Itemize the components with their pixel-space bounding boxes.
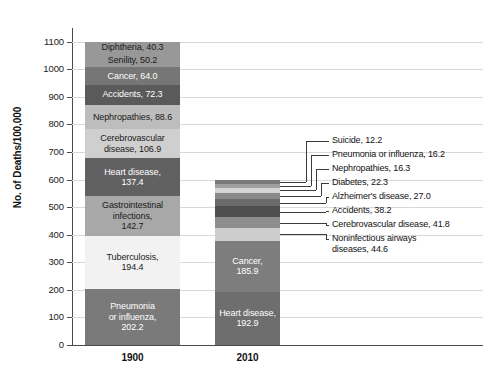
leader-line (321, 183, 322, 196)
y-tick-label: 1100 (24, 37, 64, 47)
y-tick-label: 200 (24, 285, 64, 295)
callout-label: Accidents, 38.2 (332, 205, 391, 216)
leader-line (311, 155, 312, 186)
bar-segment[interactable]: Cerebrovascular disease, 106.9 (85, 129, 180, 158)
y-tick-label-wrap: 800 (20, 119, 64, 129)
leader-line (306, 141, 329, 142)
bar-segment[interactable]: Heart disease, 137.4 (85, 158, 180, 196)
x-tick-label-2010: 2010 (215, 352, 280, 363)
y-tick-label: 100 (24, 312, 64, 322)
leader-line (316, 169, 317, 190)
callout-label: Pneumonia or influenza, 16.2 (332, 149, 445, 160)
bar-2010[interactable]: Heart disease, 192.9Cancer, 185.9 (215, 180, 280, 345)
bar-segment[interactable]: Pneumonia or influenza, 202.2 (85, 289, 180, 345)
leader-line (326, 211, 329, 212)
y-tick-label: 400 (24, 230, 64, 240)
bar-segment[interactable] (215, 188, 280, 192)
y-tick-label: 1000 (24, 64, 64, 74)
bar-segment[interactable]: Gastrointestinal infections, 142.7 (85, 196, 180, 235)
bar-segment[interactable]: Senility, 50.2 (85, 53, 180, 67)
bar-segment[interactable]: Heart disease, 192.9 (215, 292, 280, 345)
x-tick-label-1900: 1900 (85, 352, 180, 363)
y-tick-mark (67, 345, 72, 346)
x-axis-line (72, 345, 483, 346)
leader-line (326, 234, 327, 239)
leader-line (280, 186, 311, 187)
y-tick-label: 800 (24, 119, 64, 129)
leader-line (326, 225, 329, 226)
y-tick-label-wrap: 200 (20, 285, 64, 295)
leader-line (280, 203, 326, 204)
bar-1900[interactable]: Pneumonia or influenza, 202.2Tuberculosi… (85, 28, 180, 345)
y-tick-label: 0 (24, 340, 64, 350)
bar-segment[interactable]: Accidents, 72.3 (85, 85, 180, 105)
y-tick-label: 700 (24, 147, 64, 157)
leader-line (306, 141, 307, 182)
callout-label: Alzheimer's disease, 27.0 (332, 191, 431, 202)
bar-segment[interactable] (215, 184, 280, 188)
leader-line (321, 183, 329, 184)
bar-segment[interactable] (215, 228, 280, 240)
bar-segment[interactable] (215, 199, 280, 206)
leader-line (316, 169, 329, 170)
leader-line (326, 223, 327, 225)
callout-label: Noninfectious airways diseases, 44.6 (332, 233, 416, 254)
callout-label: Cerebrovascular disease, 41.8 (332, 219, 450, 230)
y-tick-label-wrap: 500 (20, 202, 64, 212)
y-tick-label-wrap: 300 (20, 257, 64, 267)
y-tick-label-wrap: 1100 (20, 37, 64, 47)
y-tick-label: 300 (24, 257, 64, 267)
bar-segment[interactable]: Diphtheria, 40.3 (85, 42, 180, 53)
bar-segment[interactable]: Cancer, 64.0 (85, 67, 180, 85)
leader-line (280, 223, 326, 224)
bar-segment[interactable] (215, 180, 280, 183)
y-tick-label-wrap: 1000 (20, 64, 64, 74)
y-tick-label: 500 (24, 202, 64, 212)
callout-label: Diabetes, 22.3 (332, 177, 388, 188)
leader-line (280, 234, 326, 235)
y-tick-label: 900 (24, 92, 64, 102)
leader-line (326, 197, 327, 203)
callout-label: Nephropathies, 16.3 (332, 163, 410, 174)
bar-segment[interactable] (215, 206, 280, 217)
y-tick-label-wrap: 100 (20, 312, 64, 322)
bar-segment[interactable]: Cancer, 185.9 (215, 241, 280, 292)
y-tick-label-wrap: 0 (20, 340, 64, 350)
y-tick-label-wrap: 600 (20, 175, 64, 185)
leader-line (280, 212, 326, 213)
y-axis-line (72, 28, 73, 346)
leader-line (280, 190, 316, 191)
bar-segment[interactable]: Nephropathies, 88.6 (85, 105, 180, 129)
leader-line (280, 182, 306, 183)
callout-label: Suicide, 12.2 (332, 135, 382, 146)
y-tick-label-wrap: 700 (20, 147, 64, 157)
bar-segment[interactable] (215, 217, 280, 229)
bar-segment[interactable]: Tuberculosis, 194.4 (85, 236, 180, 290)
leader-line (280, 196, 321, 197)
y-tick-label: 600 (24, 175, 64, 185)
bar-segment[interactable] (215, 193, 280, 199)
y-tick-label-wrap: 400 (20, 230, 64, 240)
chart-figure: No. of Deaths/100,000 010020030040050060… (0, 0, 491, 376)
leader-line (311, 155, 329, 156)
leader-line (326, 239, 329, 240)
y-tick-label-wrap: 900 (20, 92, 64, 102)
